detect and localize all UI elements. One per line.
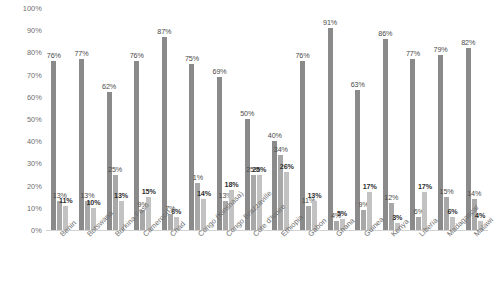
bar-value-label: 17%: [363, 182, 377, 191]
bar-column: 34%: [278, 8, 283, 230]
bar[interactable]: [466, 48, 471, 230]
y-axis-tick: 20%: [27, 181, 42, 190]
bar-group: 76%13%11%: [46, 8, 74, 230]
bar-column: 15%: [146, 8, 151, 230]
bar-column: 6%: [174, 8, 179, 230]
bar-column: 87%: [162, 8, 167, 230]
bar[interactable]: [51, 61, 56, 230]
y-axis-tick: 10%: [27, 203, 42, 212]
bar-group: 87%7%6%: [157, 8, 185, 230]
bar-column: 4%: [334, 8, 339, 230]
bar-column: 13%: [312, 8, 317, 230]
bar-value-label: 17%: [418, 182, 432, 191]
y-axis-tick: 50%: [27, 115, 42, 124]
y-axis-tick: 30%: [27, 159, 42, 168]
bar-column: 17%: [367, 8, 372, 230]
bar[interactable]: [79, 59, 84, 230]
bar[interactable]: [162, 37, 167, 230]
bar-column: 7%: [168, 8, 173, 230]
bar-group: 62%25%13%: [101, 8, 129, 230]
bar-value-label: 25%: [252, 165, 266, 174]
bar-column: 76%: [134, 8, 139, 230]
bar[interactable]: [189, 64, 194, 231]
bar-value-label: 26%: [280, 162, 294, 171]
bar-column: 13%: [223, 8, 228, 230]
bar-column: 4%: [478, 8, 483, 230]
bar-group: 82%14%4%: [460, 8, 488, 230]
bar-column: 91%: [328, 8, 333, 230]
bar-column: 63%: [355, 8, 360, 230]
bar[interactable]: [57, 201, 62, 230]
bar-column: 14%: [472, 8, 477, 230]
bar-column: 25%: [251, 8, 256, 230]
y-axis-tick: 100%: [23, 4, 42, 13]
bar[interactable]: [113, 175, 118, 231]
y-axis-tick: 90%: [27, 26, 42, 35]
bar-column: 17%: [422, 8, 427, 230]
bar-group: 77%13%10%: [74, 8, 102, 230]
bar-value-label: 10%: [86, 198, 100, 207]
bar-column: 62%: [107, 8, 112, 230]
bar-column: 10%: [91, 8, 96, 230]
bar-column: 14%: [201, 8, 206, 230]
bar-group: 76%11%13%: [295, 8, 323, 230]
bar-value-label: 14%: [197, 189, 211, 198]
bar-column: 11%: [63, 8, 68, 230]
bar[interactable]: [438, 55, 443, 230]
bar-column: 75%: [189, 8, 194, 230]
y-axis-tick: 80%: [27, 48, 42, 57]
y-axis-tick: 40%: [27, 137, 42, 146]
y-axis-tick: 70%: [27, 70, 42, 79]
bar-value-label: 11%: [59, 196, 73, 205]
bar-group: 75%1%14%: [184, 8, 212, 230]
bar-column: 77%: [410, 8, 415, 230]
bar-column: 9%: [140, 8, 145, 230]
bar-group: 91%4%5%: [322, 8, 350, 230]
bar-column: 13%: [85, 8, 90, 230]
y-axis-tick: 60%: [27, 92, 42, 101]
bar-column: 50%: [245, 8, 250, 230]
x-axis-labels: BeninBotswanaBurkina FasoCameroonChadCon…: [46, 232, 488, 300]
bar[interactable]: [410, 59, 415, 230]
bar[interactable]: [328, 28, 333, 230]
bar-group: 79%15%6%: [433, 8, 461, 230]
bar-column: 26%: [284, 8, 289, 230]
bar-value-label: 13%: [114, 191, 128, 200]
bar-group: 63%9%17%: [350, 8, 378, 230]
y-axis: 100%90%80%70%60%50%40%30%20%10%0%: [0, 8, 46, 230]
bar-group: 86%12%3%: [378, 8, 406, 230]
y-axis-tick: 0%: [31, 226, 42, 235]
bar-value-label: 5%: [337, 209, 347, 218]
bar-column: 9%: [361, 8, 366, 230]
bar-column: 6%: [450, 8, 455, 230]
bar-value-label: 6%: [447, 207, 457, 216]
bar-value-label: 6%: [171, 207, 181, 216]
bar[interactable]: [300, 61, 305, 230]
bar-group: 76%9%15%: [129, 8, 157, 230]
bar-column: 40%: [272, 8, 277, 230]
bar-value-label: 13%: [307, 191, 321, 200]
bar-column: 13%: [119, 8, 124, 230]
bar-value-label: 15%: [142, 187, 156, 196]
bar-column: 15%: [444, 8, 449, 230]
bar-column: 3%: [395, 8, 400, 230]
bar-column: 79%: [438, 8, 443, 230]
bar-column: 6%: [416, 8, 421, 230]
bar-column: 5%: [340, 8, 345, 230]
bar-column: 12%: [389, 8, 394, 230]
bar-value-label: 18%: [225, 180, 239, 189]
bar-group: 77%6%17%: [405, 8, 433, 230]
